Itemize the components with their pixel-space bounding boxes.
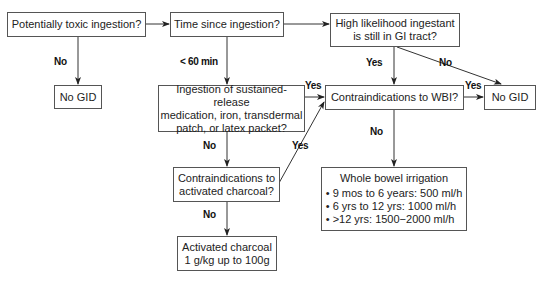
edge-label-time-lt60: < 60 min bbox=[180, 56, 218, 67]
node-text-line: Activated charcoal bbox=[182, 241, 272, 254]
node-whole-bowel-irrigation: Whole bowel irrigation • 9 mos to 6 year… bbox=[321, 167, 467, 231]
edge-label-charcoal-contra-yes: Yes bbox=[292, 140, 308, 151]
node-text-line: Contraindications to bbox=[178, 172, 275, 185]
dosage-item: • >12 yrs: 1500−2000 ml/h bbox=[326, 213, 463, 226]
node-contraindications-charcoal: Contraindications to activated charcoal? bbox=[173, 167, 280, 202]
node-activated-charcoal: Activated charcoal 1 g/kg up to 100g bbox=[177, 236, 277, 271]
node-text: Potentially toxic ingestion? bbox=[12, 18, 142, 31]
node-text: No GID bbox=[60, 91, 97, 104]
node-contraindications-wbi: Contraindications to WBI? bbox=[325, 85, 464, 110]
node-no-gid-right: No GID bbox=[484, 85, 536, 110]
dosage-list: • 9 mos to 6 years: 500 ml/h • 6 yrs to … bbox=[326, 187, 463, 226]
edge-label-toxic-no: No bbox=[54, 56, 67, 67]
node-text: Time since ingestion? bbox=[174, 18, 280, 31]
node-text-line: medication, iron, transdermal bbox=[161, 109, 303, 122]
node-text: No GID bbox=[492, 91, 529, 104]
node-potentially-toxic-ingestion: Potentially toxic ingestion? bbox=[7, 12, 146, 37]
node-title: Whole bowel irrigation bbox=[340, 172, 448, 185]
node-text-line: is still in GI tract? bbox=[353, 30, 437, 43]
edge-label-likelihood-no: No bbox=[439, 57, 452, 68]
edge-label-sustained-yes: Yes bbox=[305, 80, 321, 91]
edge-label-likelihood-yes: Yes bbox=[366, 57, 382, 68]
node-text-line: activated charcoal? bbox=[179, 185, 274, 198]
edge-label-charcoal-contra-no: No bbox=[203, 209, 216, 220]
dosage-item: • 6 yrs to 12 yrs: 1000 ml/h bbox=[326, 200, 463, 213]
node-text-line: patch, or latex packet? bbox=[176, 122, 287, 135]
node-no-gid-left: No GID bbox=[54, 85, 102, 109]
edge-label-wbi-contra-no: No bbox=[370, 126, 383, 137]
node-text-line: Ingestion of sustained-release bbox=[159, 83, 304, 109]
dosage-item: • 9 mos to 6 years: 500 ml/h bbox=[326, 187, 463, 200]
edge-label-wbi-contra-yes: Yes bbox=[465, 80, 481, 91]
node-text: Contraindications to WBI? bbox=[331, 91, 458, 104]
edge-label-sustained-no: No bbox=[203, 140, 216, 151]
node-sustained-release-ingestion: Ingestion of sustained-release medicatio… bbox=[158, 85, 305, 132]
node-text-line: High likelihood ingestant bbox=[335, 17, 454, 30]
node-text-line: 1 g/kg up to 100g bbox=[184, 254, 269, 267]
node-high-likelihood-gi-tract: High likelihood ingestant is still in GI… bbox=[330, 13, 460, 47]
node-time-since-ingestion: Time since ingestion? bbox=[170, 12, 284, 37]
